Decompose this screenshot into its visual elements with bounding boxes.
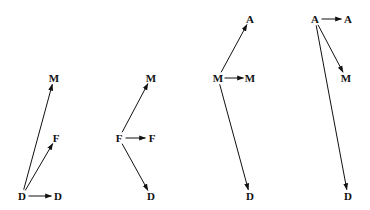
arrow-m-to-d [220, 84, 249, 189]
node-label-f: F [116, 133, 123, 144]
arrow-m-to-a [221, 25, 247, 73]
node-label-m: M [245, 73, 255, 84]
node-label-a: A [344, 14, 352, 25]
node-label-a: A [246, 14, 254, 25]
node-label-m: M [341, 73, 351, 84]
node-label-f: F [53, 133, 60, 144]
arrow-a-to-m [318, 25, 343, 72]
node-label-d: D [54, 191, 62, 202]
node-label-f: F [149, 133, 156, 144]
diagram-3 [220, 25, 249, 190]
node-label-d: D [246, 191, 254, 202]
node-label-d: D [344, 191, 352, 202]
node-label-a: A [311, 14, 319, 25]
node-label-m: M [146, 73, 156, 84]
arrow-f-to-d [122, 144, 148, 191]
arrow-d-to-m [24, 84, 53, 189]
diagram-1 [24, 84, 53, 196]
node-label-m: M [213, 73, 223, 84]
node-label-d: D [18, 191, 26, 202]
node-label-m: M [49, 73, 59, 84]
node-label-d: D [147, 191, 155, 202]
diagram-2 [122, 84, 148, 191]
arrow-layer [0, 0, 370, 210]
arrow-f-to-m [122, 84, 148, 133]
diagram-4 [316, 19, 347, 190]
